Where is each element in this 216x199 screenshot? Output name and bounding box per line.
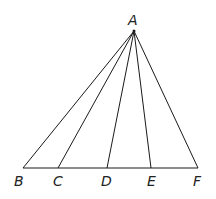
label-e: E [147, 173, 156, 189]
segment-af [134, 31, 198, 168]
apex-point-a [133, 30, 136, 33]
segment-ab [23, 31, 134, 168]
segment-ae [134, 31, 151, 168]
label-a: A [127, 12, 138, 28]
segment-ac [58, 31, 134, 168]
label-d: D [101, 173, 112, 189]
label-c: C [53, 173, 63, 189]
label-b: B [14, 173, 24, 189]
triangle-diagram: A B C D E F [0, 0, 216, 199]
label-f: F [193, 173, 202, 189]
segment-ad [107, 31, 134, 168]
